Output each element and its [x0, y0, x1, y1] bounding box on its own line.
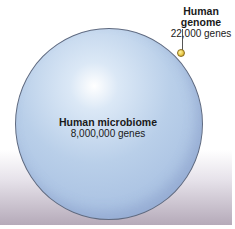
diagram-canvas: Human genome 22,000 genes Human microbio… — [0, 0, 235, 229]
genome-dot — [177, 49, 185, 57]
genome-label: Human genome 22,000 genes — [168, 6, 234, 39]
microbiome-subtitle: 8,000,000 genes — [50, 128, 166, 139]
microbiome-label: Human microbiome 8,000,000 genes — [50, 117, 166, 139]
genome-subtitle: 22,000 genes — [168, 28, 234, 39]
microbiome-title: Human microbiome — [50, 117, 166, 128]
genome-title: Human genome — [168, 6, 234, 28]
